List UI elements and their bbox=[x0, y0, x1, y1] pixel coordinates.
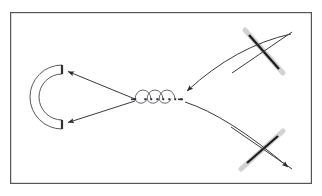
figure-border bbox=[11, 13, 312, 184]
figure-container bbox=[0, 0, 322, 196]
schematic-diagram bbox=[0, 0, 322, 196]
